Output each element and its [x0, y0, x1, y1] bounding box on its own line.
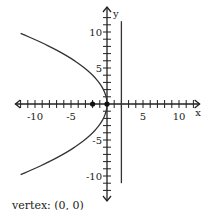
x-tick-label: -5 [66, 111, 76, 122]
y-axis-label: y [112, 8, 119, 19]
tick-labels: -10-5510105-5-10xy [27, 8, 201, 182]
x-axis-label: x [195, 107, 201, 118]
y-tick-label: 10 [89, 27, 102, 38]
vertex-caption: vertex: (0, 0) [12, 199, 84, 210]
vertex-point [104, 101, 109, 106]
x-tick-label: 10 [173, 111, 186, 122]
x-tick-label: -10 [27, 111, 43, 122]
x-tick-label: 5 [140, 111, 146, 122]
parabola-plot: -10-5510105-5-10xy [0, 0, 204, 210]
focus-point [90, 101, 95, 106]
y-tick-label: -5 [92, 135, 102, 146]
y-tick-label: -10 [86, 171, 102, 182]
y-tick-label: 5 [96, 63, 102, 74]
